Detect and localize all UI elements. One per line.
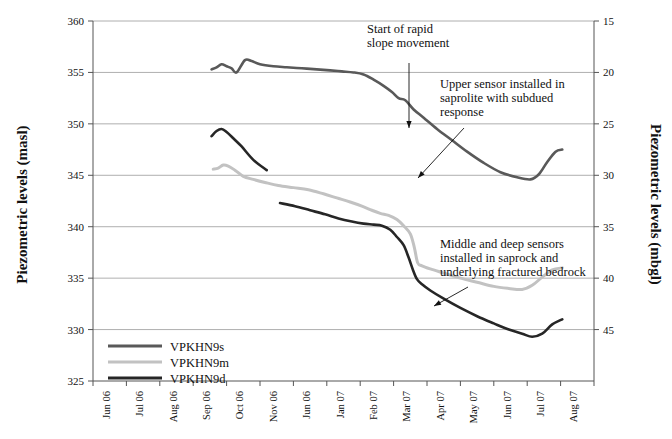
x-tick-label-2: Aug 06 [168, 391, 179, 422]
y-right-tick-label-25: 25 [603, 118, 615, 130]
x-tick-label-6: Jun 06 [301, 391, 312, 419]
annotations-group: Start of rapidslope movementUpper sensor… [367, 22, 587, 306]
x-tick-label-1: Jul 06 [134, 391, 145, 416]
annotation-upper-sensor-saprolite: Upper sensor installed insaprolite with … [440, 77, 565, 119]
x-tick-label-9: Mar 07 [401, 391, 412, 422]
x-tick-label-5: Nov 06 [268, 391, 279, 422]
chart-legend: VPKHN9sVPKHN9mVPKHN9d [108, 340, 229, 386]
annotation-line: installed in saprock and [440, 251, 559, 265]
y-right-tick-label-15: 15 [603, 15, 615, 27]
y-axis-right-ticks: 15202530354045 [594, 15, 615, 336]
legend-label-VPKHN9d: VPKHN9d [170, 372, 226, 386]
legend-label-VPKHN9s: VPKHN9s [170, 340, 224, 354]
series-line-VPKHN9d-seg0 [212, 129, 267, 170]
annotation-leader-upper-sensor-saprolite [418, 128, 464, 178]
x-tick-label-4: Oct 06 [234, 391, 245, 419]
x-tick-label-13: Jul 07 [535, 391, 546, 416]
annotation-line: response [440, 105, 484, 119]
annotation-arrowhead-middle-deep-sensors-saprock [434, 300, 441, 306]
y-tick-label-330: 330 [68, 324, 85, 336]
y-tick-label-350: 350 [68, 118, 85, 130]
x-axis-ticks: Jun 06Jul 06Aug 06Sep 06Oct 06Nov 06Jun … [93, 381, 594, 423]
gridlines-group [93, 21, 594, 330]
annotation-middle-deep-sensors-saprock: Middle and deep sensorsinstalled in sapr… [440, 237, 587, 279]
x-tick-label-14: Aug 07 [568, 391, 579, 422]
annotation-line: saprolite with subdued [440, 91, 554, 105]
y-right-tick-label-45: 45 [603, 324, 615, 336]
y-tick-label-345: 345 [68, 169, 85, 181]
y-tick-label-340: 340 [68, 221, 85, 233]
annotation-line: slope movement [367, 36, 450, 50]
x-tick-label-10: Apr 07 [435, 391, 446, 420]
legend-label-VPKHN9m: VPKHN9m [170, 356, 229, 370]
y-tick-label-360: 360 [68, 15, 85, 27]
annotation-line: Upper sensor installed in [440, 77, 565, 91]
x-tick-label-0: Jun 06 [101, 391, 112, 419]
y-tick-label-335: 335 [68, 272, 85, 284]
y-tick-label-325: 325 [68, 375, 85, 387]
annotation-line: underlying fractured bedrock [440, 265, 587, 279]
annotation-line: Start of rapid [367, 22, 434, 36]
annotation-start-rapid-slope-movement: Start of rapidslope movement [367, 22, 450, 50]
x-tick-label-3: Sep 06 [201, 391, 212, 420]
x-tick-label-7: Jan 07 [335, 391, 346, 418]
y-right-tick-label-40: 40 [603, 272, 615, 284]
y-right-tick-label-35: 35 [603, 221, 615, 233]
y-right-tick-label-30: 30 [603, 169, 615, 181]
x-tick-label-8: Feb 07 [368, 391, 379, 420]
annotation-arrowhead-start-rapid-slope-movement [406, 121, 411, 128]
chart-figure: Piezometric levels (masl) Piezometric le… [0, 0, 672, 439]
x-tick-label-11: May 07 [468, 391, 479, 423]
annotation-line: Middle and deep sensors [440, 237, 564, 251]
y-tick-label-355: 355 [68, 66, 85, 78]
x-tick-label-12: Jun 07 [502, 391, 513, 419]
y-axis-left-ticks: 325330335340345350355360 [68, 15, 94, 387]
piezometric-levels-line-chart: 325330335340345350355360 15202530354045 … [0, 0, 672, 439]
y-right-tick-label-20: 20 [603, 66, 615, 78]
